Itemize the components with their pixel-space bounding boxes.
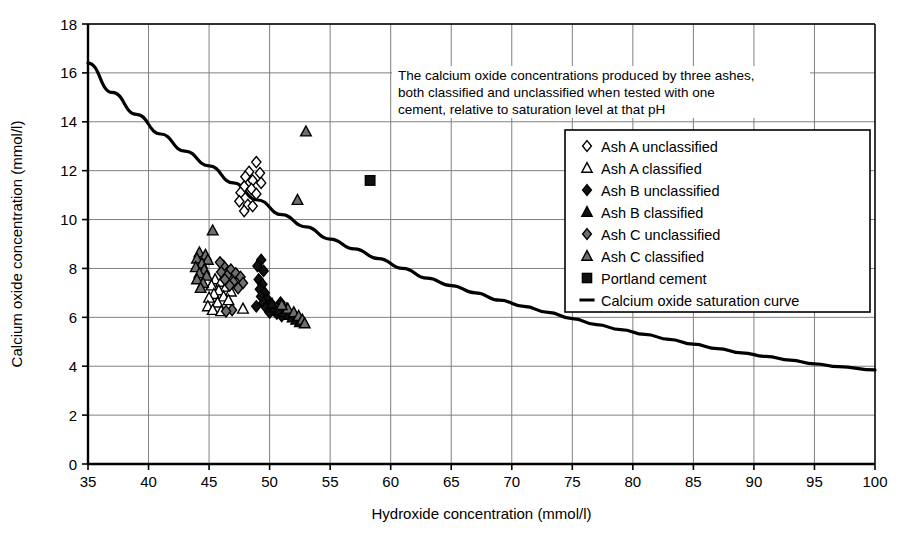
caption-line: The calcium oxide concentrations produce… xyxy=(398,68,754,83)
legend-item[interactable]: Ash B classified xyxy=(582,205,703,221)
legend-label: Ash A unclassified xyxy=(601,139,718,155)
legend-item[interactable]: Calcium oxide saturation curve xyxy=(579,293,799,309)
scatter-chart: 3540455055606570758085909510002468101214… xyxy=(0,0,905,538)
legend-label: Portland cement xyxy=(601,271,707,287)
y-tick-label: 6 xyxy=(69,309,77,326)
x-tick-label: 35 xyxy=(80,473,97,490)
legend-item[interactable]: Ash C classified xyxy=(582,249,704,265)
y-tick-label: 12 xyxy=(60,162,77,179)
legend-label: Ash C unclassified xyxy=(601,227,720,243)
y-tick-label: 4 xyxy=(69,358,77,375)
chart-container: 3540455055606570758085909510002468101214… xyxy=(0,0,905,538)
legend-item[interactable]: Ash A unclassified xyxy=(583,139,718,155)
legend-label: Ash A classified xyxy=(601,161,702,177)
x-tick-label: 45 xyxy=(201,473,218,490)
legend-label: Calcium oxide saturation curve xyxy=(601,293,799,309)
x-tick-label: 90 xyxy=(746,473,763,490)
x-tick-label: 65 xyxy=(443,473,460,490)
legend-label: Ash C classified xyxy=(601,249,704,265)
y-tick-label: 14 xyxy=(60,113,77,130)
data-point xyxy=(365,176,375,186)
legend-item[interactable]: Ash B unclassified xyxy=(583,183,720,199)
x-tick-label: 55 xyxy=(322,473,339,490)
y-tick-label: 8 xyxy=(69,260,77,277)
legend-label: Ash B unclassified xyxy=(601,183,719,199)
y-tick-label: 16 xyxy=(60,64,77,81)
legend-marker-square-filled xyxy=(582,273,591,282)
x-tick-label: 80 xyxy=(625,473,642,490)
x-tick-label: 75 xyxy=(564,473,581,490)
series-portland-cement xyxy=(365,176,375,186)
x-tick-label: 60 xyxy=(382,473,399,490)
y-axis-title: Calcium oxide concentration (mmol/l) xyxy=(8,121,25,368)
x-tick-label: 70 xyxy=(503,473,520,490)
legend-item[interactable]: Ash C unclassified xyxy=(583,227,721,243)
y-tick-label: 0 xyxy=(69,456,77,473)
legend-label: Ash B classified xyxy=(601,205,703,221)
caption-line: cement, relative to saturation level at … xyxy=(398,102,665,117)
y-tick-label: 2 xyxy=(69,407,77,424)
caption-line: both classified and unclassified when te… xyxy=(398,85,715,100)
legend-item[interactable]: Portland cement xyxy=(582,271,706,287)
x-tick-label: 100 xyxy=(862,473,887,490)
x-tick-label: 50 xyxy=(261,473,278,490)
x-tick-label: 95 xyxy=(806,473,823,490)
y-tick-label: 10 xyxy=(60,211,77,228)
x-axis-title: Hydroxide concentration (mmol/l) xyxy=(371,505,591,522)
x-tick-label: 40 xyxy=(140,473,157,490)
x-tick-label: 85 xyxy=(685,473,702,490)
y-tick-label: 18 xyxy=(60,16,77,33)
